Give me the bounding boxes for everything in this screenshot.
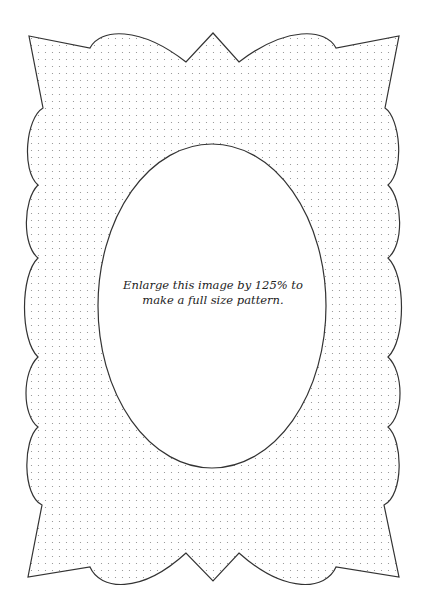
instruction-line-2: make a full size pattern. xyxy=(98,293,328,308)
pattern-page: Enlarge this image by 125% to make a ful… xyxy=(0,0,426,609)
instruction-line-1: Enlarge this image by 125% to xyxy=(98,278,328,293)
enlarge-instruction-text: Enlarge this image by 125% to make a ful… xyxy=(98,278,328,308)
